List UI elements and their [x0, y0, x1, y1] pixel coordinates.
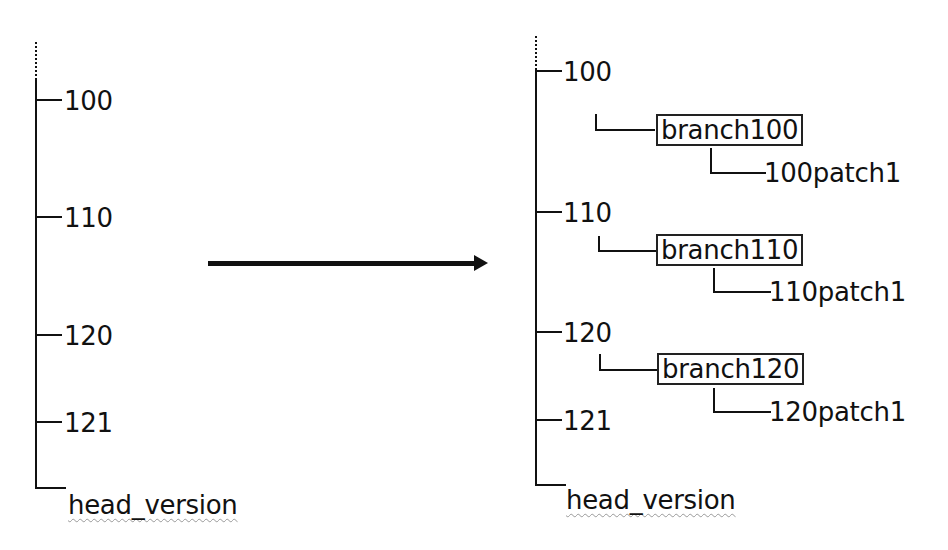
- left-version-121: 121: [64, 408, 113, 438]
- right-tick-120: [536, 331, 562, 333]
- branch120-connector: [599, 369, 657, 371]
- branch110-connector: [598, 250, 656, 252]
- left-trunk-line: [35, 80, 37, 489]
- right-head-version-label: head_version: [566, 485, 736, 515]
- left-head-version-label: head_version: [68, 490, 238, 520]
- branch100-stem: [595, 114, 597, 130]
- left-version-110: 110: [64, 203, 113, 233]
- right-version-120: 120: [563, 318, 612, 348]
- branch100-connector: [595, 129, 655, 131]
- right-trunk-continuation: [535, 36, 537, 72]
- left-version-100: 100: [64, 86, 113, 116]
- right-version-121: 121: [563, 406, 612, 436]
- patch110-connector: [713, 291, 771, 293]
- patch100-stem: [710, 148, 712, 173]
- branch110-box: branch110: [656, 234, 803, 266]
- right-head-connector: [536, 484, 566, 486]
- left-tick-100: [36, 99, 62, 101]
- right-tick-110: [536, 211, 562, 213]
- right-trunk-line: [535, 70, 537, 486]
- branch120-box: branch120: [657, 353, 804, 385]
- right-version-100: 100: [563, 57, 612, 87]
- left-tick-110: [36, 216, 62, 218]
- right-tick-121: [536, 419, 562, 421]
- patch100-connector: [710, 172, 766, 174]
- left-version-120: 120: [64, 321, 113, 351]
- right-tick-100: [536, 70, 562, 72]
- patch110-stem: [713, 268, 715, 292]
- arrow-right-icon: [474, 255, 488, 271]
- right-version-110: 110: [563, 198, 612, 228]
- patch-110patch1: 110patch1: [769, 277, 906, 307]
- left-tick-121: [36, 421, 62, 423]
- patch120-connector: [713, 411, 771, 413]
- branch100-box: branch100: [656, 114, 803, 146]
- patch-100patch1: 100patch1: [764, 158, 901, 188]
- left-tick-120: [36, 334, 62, 336]
- branch110-stem: [598, 236, 600, 251]
- left-trunk-continuation: [35, 42, 37, 82]
- left-head-connector: [36, 487, 66, 489]
- branch120-stem: [599, 354, 601, 370]
- arrow-shaft: [208, 261, 476, 266]
- patch120-stem: [713, 388, 715, 412]
- patch-120patch1: 120patch1: [769, 397, 906, 427]
